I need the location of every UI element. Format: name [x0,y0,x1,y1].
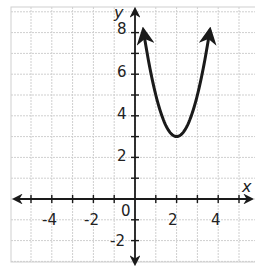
origin-label: 0 [121,202,131,220]
x-tick-label: -2 [84,211,99,229]
coordinate-plane: y x 0 -4 -2 2 4 8 6 4 2 -2 [0,0,255,267]
x-tick-label: 2 [168,211,178,229]
y-tick-label: 6 [117,63,127,81]
x-axis-label: x [241,177,252,196]
y-tick-label: 8 [117,20,127,38]
y-tick-label: -2 [110,232,125,250]
y-tick-label: 2 [117,147,127,165]
x-tick-label: -4 [42,211,57,229]
x-tick-label: 4 [211,211,221,229]
y-tick-label: 4 [117,105,127,123]
